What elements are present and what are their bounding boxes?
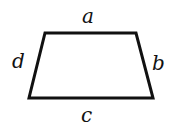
label-left-side: d bbox=[12, 49, 25, 73]
trapezoid-shape bbox=[29, 33, 153, 98]
label-bottom-side: c bbox=[81, 103, 92, 127]
trapezoid-diagram: a b c d bbox=[0, 0, 171, 129]
label-right-side: b bbox=[152, 51, 165, 75]
label-top-side: a bbox=[82, 4, 94, 28]
